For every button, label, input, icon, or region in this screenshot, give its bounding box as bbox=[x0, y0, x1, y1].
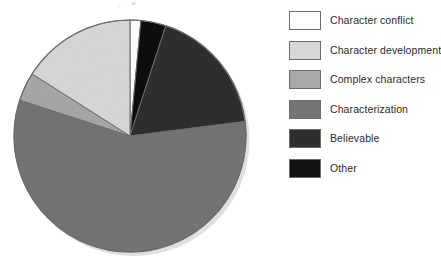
legend-item-believable[interactable]: Believable bbox=[289, 124, 440, 154]
legend-label-believable: Believable bbox=[330, 133, 379, 144]
legend-label-characterization: Characterization bbox=[330, 104, 408, 115]
legend-swatch-character-conflict bbox=[289, 11, 321, 30]
legend-item-other[interactable]: Other bbox=[289, 154, 440, 184]
pie-svg bbox=[0, 0, 280, 266]
legend-swatch-believable bbox=[289, 129, 321, 148]
legend-label-character-development: Character development bbox=[330, 45, 441, 56]
chart-legend: Character conflict Character development… bbox=[289, 6, 440, 192]
pie-chart-plot-area bbox=[0, 0, 280, 266]
legend-swatch-complex-characters bbox=[289, 70, 321, 89]
legend-item-character-conflict[interactable]: Character conflict bbox=[289, 6, 440, 36]
legend-swatch-characterization bbox=[289, 100, 321, 119]
legend-label-complex-characters: Complex characters bbox=[330, 74, 425, 85]
legend-label-other: Other bbox=[330, 163, 357, 174]
legend-swatch-other bbox=[289, 159, 321, 178]
legend-item-characterization[interactable]: Characterization bbox=[289, 95, 440, 125]
pie-slices-group bbox=[14, 20, 246, 252]
legend-item-complex-characters[interactable]: Complex characters bbox=[289, 65, 440, 95]
legend-swatch-character-development bbox=[289, 41, 321, 60]
legend-label-character-conflict: Character conflict bbox=[330, 15, 414, 26]
legend-item-character-development[interactable]: Character development bbox=[289, 36, 440, 66]
